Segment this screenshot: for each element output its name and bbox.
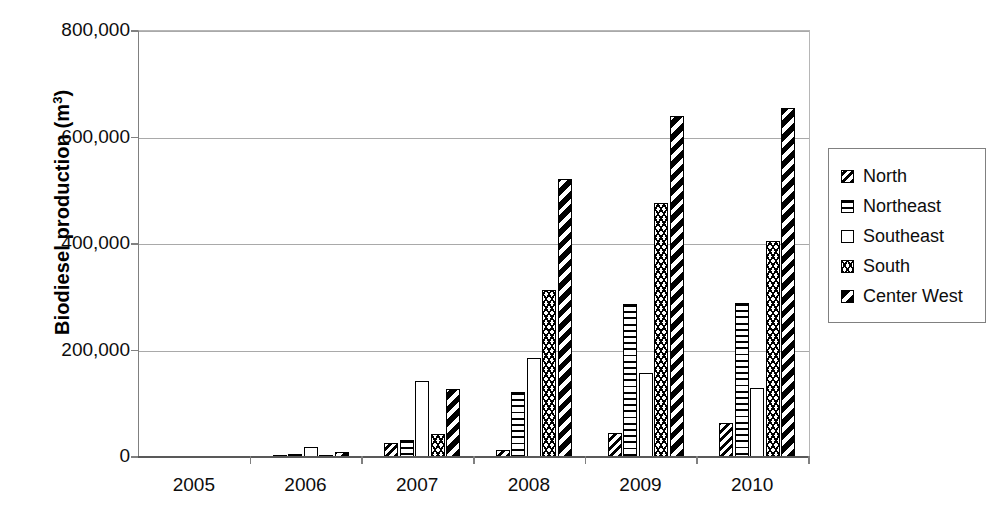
x-tick-label-2009: 2009 <box>581 474 701 496</box>
x-axis-separator <box>696 456 698 464</box>
legend-item-north[interactable]: North <box>841 161 985 191</box>
bar-2009-southeast <box>639 373 653 457</box>
legend-swatch-icon-center-west <box>841 290 854 303</box>
legend-label: Northeast <box>863 197 941 215</box>
x-axis-separator <box>250 456 252 464</box>
y-tick-label-0: 0 <box>10 446 130 465</box>
bar-2007-north <box>384 443 398 457</box>
legend-label: South <box>863 257 910 275</box>
bar-2007-northeast <box>400 440 414 457</box>
bar-2007-center-west <box>446 389 460 457</box>
y-tick-mark-0 <box>131 456 138 458</box>
y-tick-mark-600000 <box>131 137 138 139</box>
bar-2010-north <box>719 423 733 457</box>
legend-item-southeast[interactable]: Southeast <box>841 221 985 251</box>
legend-swatch-icon-southeast <box>841 230 854 243</box>
bar-2010-center-west <box>781 108 795 457</box>
bar-2010-southeast <box>750 388 764 457</box>
legend-label: North <box>863 167 907 185</box>
y-tick-mark-800000 <box>131 30 138 32</box>
legend-label: Southeast <box>863 227 944 245</box>
y-axis-title: Biodiesel production (m3) <box>50 62 75 362</box>
x-axis-separator <box>361 456 363 464</box>
y-tick-mark-200000 <box>131 350 138 352</box>
y-axis-title-exponent: 3 <box>50 96 65 103</box>
y-tick-label-400000: 400,000 <box>10 233 130 252</box>
x-tick-label-2008: 2008 <box>469 474 589 496</box>
gridline-800000 <box>139 31 809 32</box>
x-tick-label-2005: 2005 <box>134 474 254 496</box>
bar-2008-southeast <box>527 358 541 457</box>
bar-2009-north <box>608 433 622 457</box>
bar-2008-northeast <box>511 392 525 457</box>
gridline-400000 <box>139 244 809 245</box>
legend-item-south[interactable]: South <box>841 251 985 281</box>
legend-item-center-west[interactable]: Center West <box>841 281 985 311</box>
legend-label: Center West <box>863 287 963 305</box>
x-tick-label-2010: 2010 <box>692 474 812 496</box>
y-tick-mark-400000 <box>131 243 138 245</box>
chart-legend: NorthNortheastSoutheastSouthCenter West <box>828 148 986 323</box>
bar-2010-south <box>766 241 780 457</box>
biodiesel-production-chart: Biodiesel production (m3) 0200,000400,00… <box>0 0 994 521</box>
gridline-200000 <box>139 351 809 352</box>
bar-2008-center-west <box>558 179 572 457</box>
legend-swatch-icon-south <box>841 260 854 273</box>
y-axis-title-suffix: ) <box>51 90 73 97</box>
legend-item-northeast[interactable]: Northeast <box>841 191 985 221</box>
bar-2009-south <box>654 203 668 457</box>
x-axis-separator-end <box>808 456 810 464</box>
x-tick-label-2007: 2007 <box>357 474 477 496</box>
plot-area <box>138 30 810 457</box>
bar-2007-southeast <box>415 381 429 457</box>
bar-2007-south <box>431 434 445 457</box>
bar-2010-northeast <box>735 303 749 457</box>
bar-2009-northeast <box>623 304 637 457</box>
legend-swatch-icon-north <box>841 170 854 183</box>
gridline-600000 <box>139 138 809 139</box>
x-axis-separator <box>585 456 587 464</box>
bar-2009-center-west <box>670 116 684 457</box>
y-tick-label-600000: 600,000 <box>10 127 130 146</box>
y-tick-label-200000: 200,000 <box>10 340 130 359</box>
legend-swatch-icon-northeast <box>841 200 854 213</box>
x-tick-label-2006: 2006 <box>246 474 366 496</box>
bar-2008-south <box>542 290 556 457</box>
y-tick-label-800000: 800,000 <box>10 20 130 39</box>
x-axis-separator <box>473 456 475 464</box>
